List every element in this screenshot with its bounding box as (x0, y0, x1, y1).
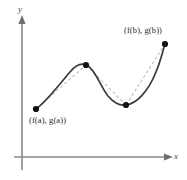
curve-point-marker (33, 106, 39, 112)
x-axis-arrowhead (164, 153, 173, 160)
y-axis-label: y (18, 5, 22, 14)
parametric-curve-path (36, 44, 165, 109)
curve-point-marker (162, 41, 168, 47)
y-axis-arrowhead (18, 15, 25, 24)
start-point-label: (f(a), g(a)) (29, 116, 66, 125)
parametric-curve-figure: y x (f(a), g(a)) (f(b), g(b)) (0, 0, 187, 180)
curve-point-markers (33, 41, 168, 112)
end-point-label: (f(b), g(b)) (124, 26, 162, 35)
curve-point-marker (83, 62, 89, 68)
chord-min-to-end (126, 44, 165, 105)
curve-point-marker (123, 102, 129, 108)
x-axis-label: x (174, 152, 178, 161)
